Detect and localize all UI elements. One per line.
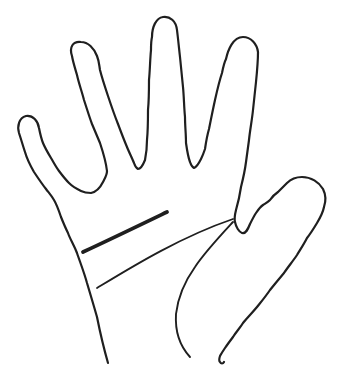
life-line (176, 222, 233, 357)
hand-illustration (0, 0, 338, 380)
heart-line (83, 212, 167, 252)
illustration-canvas (0, 0, 338, 380)
head-line (97, 219, 233, 288)
hand-outline (18, 17, 325, 364)
